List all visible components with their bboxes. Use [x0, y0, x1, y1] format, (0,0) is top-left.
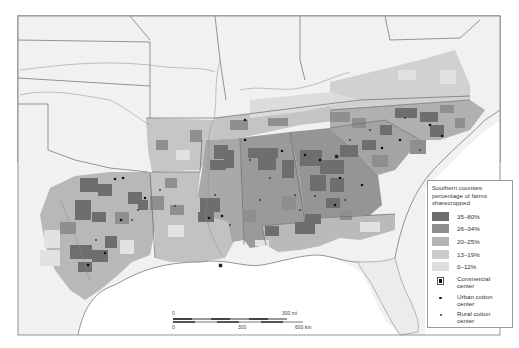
legend-label: 35–80% — [457, 213, 480, 220]
legend-swatch — [432, 224, 449, 233]
legend-title-line1: Southern counties: — [432, 184, 508, 192]
legend-class-2: 20–25% — [432, 236, 508, 247]
legend-swatch — [432, 262, 449, 271]
scale-mi-end: 300 mi — [282, 310, 297, 316]
scale-mi-zero: 0 — [172, 310, 175, 316]
scale-km-mid: 300 — [238, 324, 246, 330]
rural-cotton-center-icon — [440, 314, 442, 316]
urban-cotton-center-icon — [439, 297, 442, 300]
legend-swatch — [432, 237, 449, 246]
legend-title-line2: percentage of farms — [432, 192, 508, 200]
legend-class-1: 26–34% — [432, 223, 508, 234]
legend-title: Southern counties: percentage of farms s… — [432, 184, 508, 207]
scale-km-zero: 0 — [172, 324, 175, 330]
commercial-center-icon — [439, 279, 443, 283]
legend-swatch — [432, 250, 449, 259]
legend-symbol-label: Urban cotton — [457, 293, 492, 300]
legend-symbol-label: center — [457, 317, 490, 324]
map-legend: Southern counties: percentage of farms s… — [427, 180, 513, 328]
legend-class-0: 35–80% — [432, 211, 508, 222]
legend-label: 20–25% — [457, 238, 480, 245]
legend-symbol-rural-cotton: Rural cottoncenter — [432, 310, 508, 324]
legend-symbol-urban-cotton: Urban cottoncenter — [432, 293, 508, 307]
legend-symbol-commercial: Commercialcenter — [432, 275, 508, 289]
legend-symbol-label: center — [457, 282, 490, 289]
legend-symbol-label: Rural cotton — [457, 310, 490, 317]
legend-class-3: 13–19% — [432, 249, 508, 260]
legend-class-4: 0–12% — [432, 261, 508, 272]
legend-label: 0–12% — [457, 263, 476, 270]
legend-label: 13–19% — [457, 251, 480, 258]
legend-symbol-label: center — [457, 300, 492, 307]
legend-symbol-label: Commercial — [457, 275, 490, 282]
legend-label: 26–34% — [457, 225, 480, 232]
scale-km-end: 600 km — [295, 324, 311, 330]
legend-title-line3: sharecropped — [432, 199, 508, 207]
legend-swatch — [432, 212, 449, 221]
